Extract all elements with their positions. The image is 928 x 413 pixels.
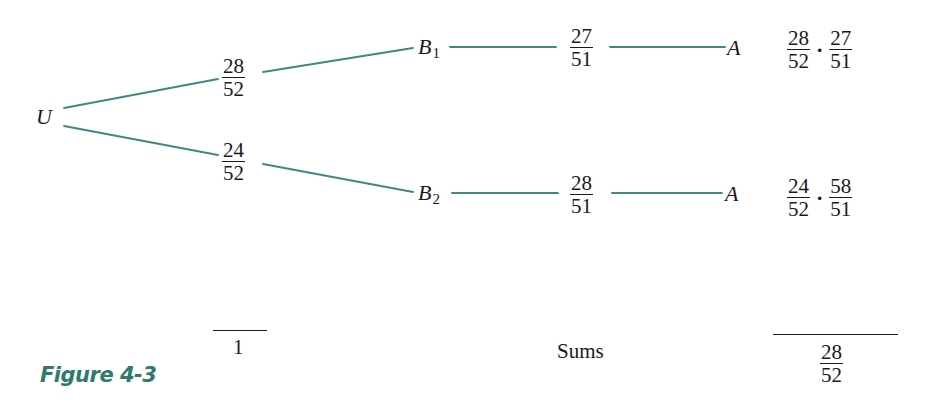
product-factor-1: 28 52 bbox=[787, 28, 810, 71]
prob-denominator: 51 bbox=[571, 195, 592, 216]
product-factor-2: 58 51 bbox=[829, 176, 852, 219]
prob-numerator: 28 bbox=[820, 342, 843, 364]
prob-numerator: 27 bbox=[829, 28, 852, 50]
sum-rule-products bbox=[773, 334, 898, 335]
product-factor-1: 24 52 bbox=[787, 176, 810, 219]
node-b2-label: B bbox=[418, 180, 431, 205]
root-node-label: U bbox=[36, 104, 52, 129]
path-product-b2-a: 24 52 · 58 51 bbox=[787, 176, 852, 219]
branch-prob-a-given-b2: 28 51 bbox=[570, 173, 593, 216]
node-b1: B1 bbox=[418, 36, 440, 64]
node-b2: B2 bbox=[418, 182, 440, 210]
node-b1-subscript: 1 bbox=[432, 45, 440, 61]
prob-numerator: 58 bbox=[829, 176, 852, 198]
prob-denominator: 52 bbox=[788, 50, 809, 71]
multiply-dot: · bbox=[816, 40, 823, 60]
branch-prob-a-given-b1: 27 51 bbox=[570, 26, 593, 69]
product-factor-2: 27 51 bbox=[829, 28, 852, 71]
sum-rule-first-stage bbox=[213, 330, 267, 331]
node-a-label: A bbox=[725, 181, 738, 206]
node-a-top: A bbox=[727, 37, 740, 59]
prob-numerator: 27 bbox=[570, 26, 593, 48]
path-product-b1-a: 28 52 · 27 51 bbox=[787, 28, 852, 71]
branch-prob-b2: 24 52 bbox=[222, 140, 245, 183]
prob-denominator: 52 bbox=[223, 78, 244, 99]
node-b1-label: B bbox=[418, 34, 431, 59]
sum-products: 28 52 bbox=[820, 342, 843, 385]
prob-numerator: 28 bbox=[222, 56, 245, 78]
prob-denominator: 51 bbox=[830, 50, 851, 71]
prob-numerator: 24 bbox=[787, 176, 810, 198]
sums-label: Sums bbox=[557, 340, 604, 362]
prob-denominator: 52 bbox=[821, 364, 842, 385]
node-b2-subscript: 2 bbox=[432, 191, 440, 207]
tree-diagram-figure: U 28 52 24 52 B1 B2 27 51 28 51 A A 28 5… bbox=[0, 0, 928, 413]
prob-numerator: 28 bbox=[570, 173, 593, 195]
prob-denominator: 52 bbox=[223, 162, 244, 183]
prob-denominator: 51 bbox=[571, 48, 592, 69]
root-node-u: U bbox=[36, 106, 52, 128]
prob-numerator: 24 bbox=[222, 140, 245, 162]
node-a-label: A bbox=[727, 35, 740, 60]
prob-denominator: 52 bbox=[788, 198, 809, 219]
figure-caption: Figure 4-3 bbox=[40, 363, 156, 387]
multiply-dot: · bbox=[816, 188, 823, 208]
node-a-bottom: A bbox=[725, 183, 738, 205]
prob-numerator: 28 bbox=[787, 28, 810, 50]
sum-first-stage: 1 bbox=[233, 336, 244, 358]
prob-denominator: 51 bbox=[830, 198, 851, 219]
branch-prob-b1: 28 52 bbox=[222, 56, 245, 99]
